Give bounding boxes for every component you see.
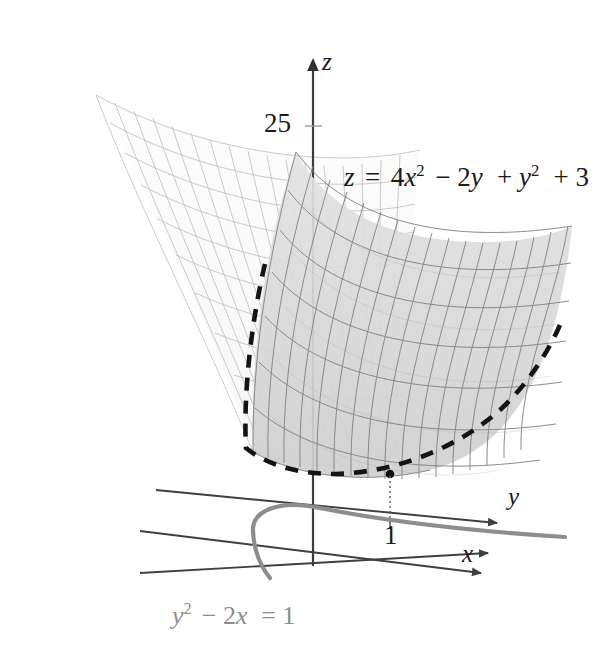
surface-plot-svg	[0, 0, 615, 653]
z-tick-label-25: 25	[264, 110, 291, 137]
eq-term-4: + 3	[550, 162, 593, 192]
constraint-y: y	[172, 601, 184, 630]
y-axis-label: y	[508, 484, 519, 509]
eq-lhs: z	[344, 162, 355, 192]
x-axis-label: x	[462, 541, 473, 566]
z-axis-label: z	[322, 49, 332, 74]
eq-equals: =	[361, 162, 384, 192]
y-tick-label-1: 1	[384, 522, 398, 549]
eq-term-3: + y2	[493, 162, 543, 192]
surface-equation: z = 4x2 − 2y + y2 + 3	[344, 163, 593, 191]
y-axis	[156, 490, 497, 523]
figure-canvas: z y x 25 1 z = 4x2 − 2y + y2 + 3 y2 − 2x…	[0, 0, 615, 653]
eq-term-2: − 2y	[431, 162, 486, 192]
constraint-equals: = 1	[258, 601, 299, 630]
constraint-parabola	[253, 505, 565, 578]
x-axis-ray	[140, 531, 481, 573]
constraint-equation: y2 − 2x = 1	[172, 601, 299, 629]
eq-term-1: 4x2	[391, 162, 425, 192]
constraint-minus: − 2x	[198, 601, 251, 630]
